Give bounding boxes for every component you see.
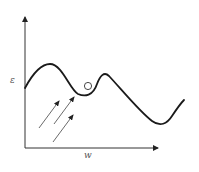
arrow-2 <box>54 97 74 124</box>
y-axis-label: ε <box>10 76 15 85</box>
ball-icon <box>84 82 91 89</box>
arrow-1 <box>39 101 59 128</box>
energy-landscape-diagram <box>0 0 199 172</box>
arrow-3 <box>53 115 73 142</box>
x-axis-label: w <box>84 151 92 160</box>
